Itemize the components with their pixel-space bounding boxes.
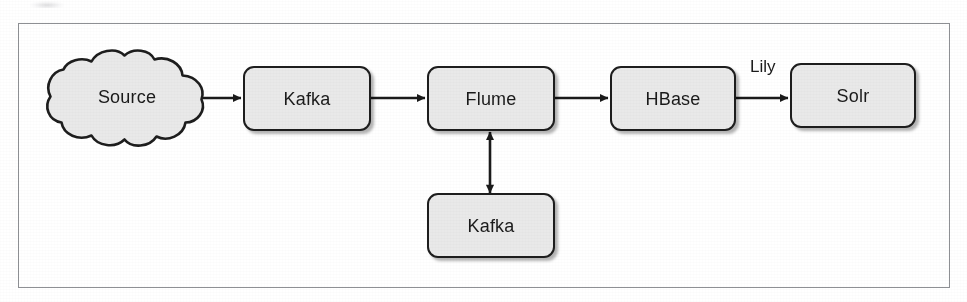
node-source-label: Source bbox=[98, 88, 156, 106]
scan-artifact bbox=[30, 1, 64, 8]
node-source-labelbox: Source bbox=[44, 46, 208, 147]
node-hbase-label: HBase bbox=[645, 90, 700, 108]
node-kafka-top[interactable]: Kafka bbox=[243, 66, 371, 131]
node-solr[interactable]: Solr bbox=[790, 63, 916, 128]
node-source[interactable]: Source bbox=[44, 46, 208, 147]
node-solr-label: Solr bbox=[837, 87, 870, 105]
node-kafka-bottom-label: Kafka bbox=[467, 217, 514, 235]
node-flume-label: Flume bbox=[465, 90, 516, 108]
node-kafka-top-label: Kafka bbox=[283, 90, 330, 108]
figure-root: Lily Source Kafka Flume HBase Solr Kafka bbox=[0, 0, 967, 302]
node-kafka-bottom[interactable]: Kafka bbox=[427, 193, 555, 258]
edge-label-lily: Lily bbox=[750, 58, 776, 75]
node-hbase[interactable]: HBase bbox=[610, 66, 736, 131]
node-flume[interactable]: Flume bbox=[427, 66, 555, 131]
